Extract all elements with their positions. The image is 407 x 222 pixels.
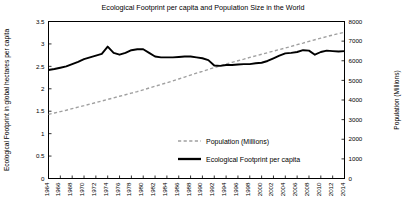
- x-axis-tick-label: 2014: [339, 182, 346, 196]
- x-axis-tick-label: 2006: [291, 182, 298, 196]
- x-axis-tick-label: 1994: [220, 182, 227, 196]
- y-axis-right-tick-label: 6000: [349, 57, 363, 64]
- x-axis-tick-label: 1996: [232, 182, 239, 196]
- y-axis-left-tick-label: 0.5: [36, 152, 45, 159]
- y-axis-right-tick-label: 1000: [349, 155, 363, 162]
- y-axis-right-tick-label: 8000: [349, 18, 363, 25]
- y-axis-left-tick-label: 1: [41, 130, 45, 137]
- x-axis-tick-label: 1978: [125, 182, 132, 196]
- y-axis-left-tick-label: 3: [41, 40, 45, 47]
- chart-legend: Population (Millions) Ecological Footpri…: [178, 138, 300, 164]
- x-axis-tick-label: 2002: [267, 182, 274, 196]
- y-axis-right-tick-label: 0: [349, 175, 353, 182]
- y-axis-left-tick-label: 1.5: [36, 107, 45, 114]
- y-axis-right-tick-label: 7000: [349, 37, 363, 44]
- x-axis-tick-label: 1974: [102, 182, 109, 196]
- y-axis-left-tick-label: 0: [41, 175, 45, 182]
- x-axis-tick-label: 2008: [303, 182, 310, 196]
- x-axis-tick-label: 1986: [173, 182, 180, 196]
- x-axis-tick-label: 1984: [161, 182, 168, 196]
- x-axis-tick-label: 2010: [315, 182, 322, 196]
- y-axis-right-tick-label: 4000: [349, 96, 363, 103]
- y-axis-left-ticks: 00.511.522.533.5: [36, 18, 52, 182]
- x-axis-tick-label: 1970: [78, 182, 85, 196]
- chart-container: Ecological Footprint per capita and Popu…: [0, 0, 407, 222]
- x-axis-tick-label: 1964: [43, 182, 50, 196]
- x-axis-tick-label: 1972: [90, 182, 97, 196]
- x-axis-tick-label: 1998: [244, 182, 251, 196]
- y-axis-left-tick-label: 2: [41, 85, 45, 92]
- y-axis-left-tick-label: 3.5: [36, 18, 45, 25]
- x-axis-tick-label: 1982: [149, 182, 156, 196]
- y-axis-right-title: Population (Millions): [393, 70, 401, 129]
- x-axis-tick-label: 2000: [256, 182, 263, 196]
- x-axis-tick-label: 1992: [208, 182, 215, 196]
- x-axis-tick-label: 1980: [137, 182, 144, 196]
- x-axis-tick-label: 2004: [279, 182, 286, 196]
- legend-label-population: Population (Millions): [206, 138, 269, 146]
- chart-title: Ecological Footprint per capita and Popu…: [102, 3, 305, 12]
- ecological-footprint-population-chart: Ecological Footprint per capita and Popu…: [0, 0, 407, 222]
- series-lines: [49, 32, 345, 114]
- y-axis-left-tick-label: 2.5: [36, 63, 45, 70]
- x-axis-tick-label: 1966: [54, 182, 61, 196]
- x-axis-tick-label: 1990: [196, 182, 203, 196]
- x-axis-tick-label: 1988: [185, 182, 192, 196]
- series-line-footprint: [49, 47, 345, 70]
- series-line-population: [49, 32, 345, 114]
- legend-label-footprint: Ecological Footprint per capita: [206, 156, 300, 164]
- x-axis-tick-label: 2012: [327, 182, 334, 196]
- y-axis-right-tick-label: 2000: [349, 135, 363, 142]
- x-axis-tick-label: 1968: [66, 182, 73, 196]
- y-axis-left-title: Ecological Footprint in global hectares …: [3, 29, 11, 172]
- y-axis-right-tick-label: 3000: [349, 116, 363, 123]
- y-axis-right-tick-label: 5000: [349, 77, 363, 84]
- x-axis-tick-label: 1976: [114, 182, 121, 196]
